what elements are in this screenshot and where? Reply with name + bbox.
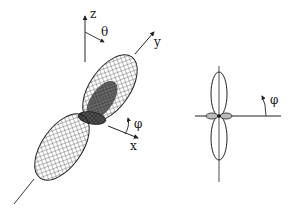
polar-phi-arc (262, 96, 266, 116)
phi-indicator (125, 118, 129, 134)
radiation-pattern-diagram: z θ y x φ (0, 0, 295, 216)
axis-extension (14, 179, 34, 204)
phi-label-left: φ (134, 117, 142, 131)
theta-label: θ (101, 25, 108, 39)
phi-label-right: φ (270, 93, 278, 107)
polar-left-side-lobe (206, 113, 218, 119)
polar-cross-section: φ (195, 66, 281, 182)
y-axis (135, 32, 154, 54)
y-axis-label: y (153, 35, 161, 49)
polar-right-side-lobe (220, 113, 232, 119)
x-axis-label: x (130, 139, 137, 153)
z-axis-label: z (90, 7, 96, 21)
polar-center (217, 114, 221, 118)
3d-pattern: z θ y x φ (14, 7, 161, 204)
